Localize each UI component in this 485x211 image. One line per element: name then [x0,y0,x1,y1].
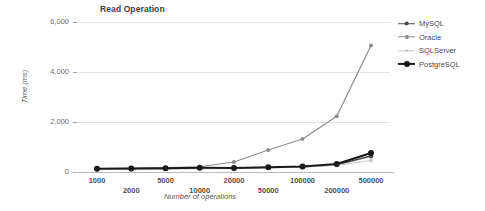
x-axis-line [74,172,394,173]
data-point-postgresql [231,165,237,171]
y-tick-label: 4,000 [25,67,69,76]
legend-label: PostgreSQL [419,60,460,69]
y-axis-title: Time (ms) [20,57,29,117]
legend-item-mysql[interactable]: MySQL [398,19,460,28]
series-line-oracle [97,46,371,169]
chart-title: Read Operation [100,4,165,14]
data-point-postgresql [265,164,271,170]
data-point-postgresql [197,165,203,171]
x-tick-label: 1000 [89,176,106,185]
data-point-oracle [369,44,373,48]
y-tick-label: 0 [25,167,69,176]
x-tick-label: 500000 [358,176,383,185]
legend-marker-icon [398,20,415,28]
legend-marker-icon [398,60,415,68]
legend-label: Oracle [419,33,441,42]
legend-item-postgresql[interactable]: PostgreSQL [398,60,460,69]
x-tick-label: 100000 [290,176,315,185]
y-tick-mark [73,122,77,123]
y-tick-mark [73,22,77,23]
legend-label: MySQL [419,19,444,28]
x-tick-label: 5000 [157,176,174,185]
legend-marker-icon [398,33,415,41]
data-point-postgresql [368,150,374,156]
data-point-postgresql [128,166,134,172]
data-point-oracle [266,148,270,152]
data-point-postgresql [300,163,306,169]
data-point-postgresql [94,166,100,172]
x-tick-label: 20000 [224,176,245,185]
data-point-oracle [301,137,305,141]
data-point-sqlserver [369,159,373,163]
legend-marker-icon [398,47,415,55]
plot-area [78,22,390,172]
data-point-postgresql [334,161,340,167]
y-tick-label: 6,000 [25,17,69,26]
data-point-oracle [335,114,339,118]
y-tick-mark [73,72,77,73]
legend-item-oracle[interactable]: Oracle [398,33,460,42]
legend-label: SQLServer [419,46,456,55]
series-lines [78,22,390,172]
data-point-oracle [232,160,236,164]
data-point-postgresql [163,165,169,171]
legend-item-sqlserver[interactable]: SQLServer [398,46,460,55]
x-axis-title: Number of operations [0,192,400,201]
chart-legend: MySQLOracleSQLServerPostgreSQL [398,19,460,69]
y-tick-label: 2,000 [25,117,69,126]
read-operation-chart: Read Operation 02,0004,0006,000 Time (ms… [0,0,485,211]
